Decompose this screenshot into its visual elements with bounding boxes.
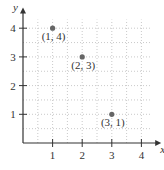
x-tick-label: 4 [139,149,145,161]
y-axis-arrow-icon [20,7,26,13]
x-tick-label: 3 [109,149,115,161]
data-point-label: (1, 4) [42,30,66,43]
x-tick-label: 1 [50,149,56,161]
x-tick-label: 2 [79,149,85,161]
y-tick-label: 3 [10,51,16,63]
tick-labels: 12341234 [10,22,144,161]
data-point-label: (3, 1) [101,116,125,129]
scatter-chart: xy 12341234 (1, 4)(2, 3)(3, 1) [0,0,164,170]
y-tick-label: 4 [10,22,16,34]
data-point-label: (2, 3) [71,59,95,72]
data-points: (1, 4)(2, 3)(3, 1) [42,26,125,130]
axes: xy [12,1,164,155]
y-tick-label: 1 [10,108,16,120]
x-axis-label: x [159,143,164,155]
y-tick-label: 2 [10,80,16,92]
y-axis-label: y [12,1,18,13]
